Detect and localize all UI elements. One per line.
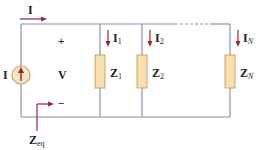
impedance-z1 — [95, 55, 105, 88]
impedance-z2 — [137, 55, 147, 88]
current-source-icon — [12, 66, 30, 84]
branch-1-current-label: I1 — [113, 32, 122, 46]
branch-2-current-arrow-icon — [148, 30, 153, 47]
minus-sign: − — [58, 98, 64, 109]
zn-label: ZN — [240, 67, 253, 81]
branch-n-current-label: IN — [243, 32, 253, 46]
input-current-label: I — [28, 4, 33, 16]
input-current-arrow-icon — [20, 17, 47, 22]
plus-sign: + — [58, 36, 64, 47]
circuit-diagram — [0, 0, 262, 150]
zeq-arrow-icon — [37, 102, 54, 132]
zeq-label: Zeq — [29, 134, 45, 148]
branch-n-current-arrow-icon — [236, 30, 241, 47]
voltage-label: V — [58, 69, 67, 81]
branch-2-current-label: I2 — [155, 32, 164, 46]
z1-label: Z1 — [110, 67, 122, 81]
branch-1-current-arrow-icon — [106, 30, 111, 47]
z2-label: Z2 — [152, 67, 164, 81]
impedance-zn — [225, 55, 235, 88]
source-current-label: I — [3, 69, 8, 81]
